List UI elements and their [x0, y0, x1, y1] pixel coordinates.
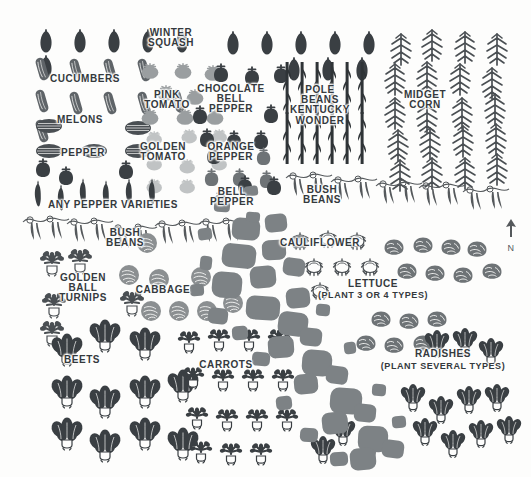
path-stone — [245, 295, 281, 321]
path-stone — [349, 447, 377, 471]
path-stone — [293, 373, 319, 395]
label-carrots: CARROTS — [199, 360, 252, 370]
label-radishes: RADISHES — [415, 349, 471, 359]
label-bush-beans-upper: BUSH BEANS — [303, 185, 341, 205]
label-chocolate-bell-pepper: CHOCOLATE BELL PEPPER — [197, 84, 265, 115]
path-stone — [381, 439, 405, 460]
path-stone — [343, 341, 356, 354]
compass-north-label: N — [500, 243, 522, 253]
path-stone — [282, 257, 306, 278]
path-stone — [353, 403, 376, 423]
path-stone — [325, 365, 349, 386]
label-lettuce: LETTUCE — [348, 279, 398, 289]
path-stone — [285, 287, 311, 309]
label-beets: BEETS — [64, 355, 100, 365]
garden-plan: WINTER SQUASHCUCUMBERSPINK TOMATOCHOCOLA… — [0, 0, 531, 477]
path-stone — [251, 351, 270, 367]
path-stone — [299, 327, 323, 347]
label-cauliflower: CAULIFLOWER — [280, 238, 360, 248]
label-cabbage: CABBAGE — [136, 285, 190, 295]
path-stone — [267, 335, 294, 359]
path-stone — [190, 284, 205, 297]
label-pink-tomato: PINK TOMATO — [144, 90, 190, 110]
path-stone — [221, 242, 257, 269]
path-stone — [275, 395, 292, 411]
path-stone — [211, 271, 243, 300]
garden-stone-path — [0, 0, 531, 477]
label-radishes-note: (PLANT SEVERAL TYPES) — [381, 362, 505, 371]
path-stone — [249, 265, 277, 289]
path-stone — [392, 415, 407, 428]
path-stone — [207, 307, 229, 325]
label-pepper: PEPPER — [61, 148, 105, 158]
label-bell-pepper: BELL PEPPER — [210, 187, 254, 207]
path-stone — [199, 255, 212, 270]
label-lettuce-note: (PLANT 3 OR 4 TYPES) — [318, 291, 428, 300]
label-cucumbers: CUCUMBERS — [50, 74, 120, 84]
path-stone — [321, 411, 349, 436]
path-stone — [197, 227, 213, 241]
label-melons: MELONS — [57, 115, 103, 125]
label-golden-ball-turnips: GOLDEN BALL TURNIPS — [59, 273, 107, 304]
label-bush-beans-lower: BUSH BEANS — [106, 228, 144, 248]
path-stone — [316, 303, 331, 316]
label-midget-corn: MIDGET CORN — [404, 90, 446, 110]
label-pole-beans-kentucky-wonder: POLE BEANS KENTUCKY WONDER — [290, 85, 350, 126]
path-stone — [300, 427, 319, 442]
label-winter-squash: WINTER SQUASH — [148, 28, 194, 48]
label-any-pepper-varieties: ANY PEPPER VARIETIES — [48, 200, 178, 210]
path-stone — [232, 325, 249, 340]
label-orange-pepper: ORANGE PEPPER — [207, 142, 254, 162]
north-arrow-icon — [503, 218, 519, 238]
path-stone — [330, 451, 349, 466]
label-golden-tomato: GOLDEN TOMATO — [140, 142, 186, 162]
path-stone — [372, 384, 387, 397]
path-stone — [264, 213, 288, 233]
compass: N — [500, 218, 522, 253]
path-stone — [246, 212, 261, 223]
